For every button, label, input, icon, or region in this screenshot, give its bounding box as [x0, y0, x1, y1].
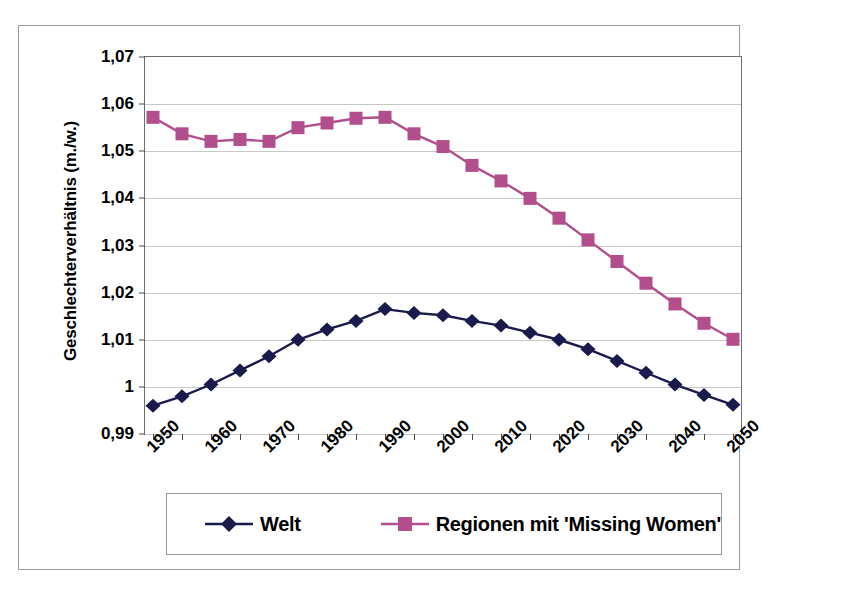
data-point-marker	[552, 333, 567, 347]
data-point-marker	[437, 140, 450, 153]
plot-area: 1,071,061,051,041,031,021,0110,99 195019…	[144, 56, 742, 435]
y-axis-tick-label: 1,01	[101, 330, 134, 350]
data-point-marker	[495, 174, 508, 187]
data-point-marker	[668, 378, 683, 392]
data-point-marker	[146, 399, 161, 413]
y-axis-tick-label: 1,06	[101, 94, 134, 114]
data-point-marker	[378, 302, 393, 316]
y-axis-tick-label: 1,04	[101, 188, 134, 208]
legend-label: Welt	[260, 513, 301, 536]
data-point-marker	[233, 363, 248, 377]
data-point-marker	[407, 306, 422, 320]
data-point-marker	[292, 121, 305, 134]
data-point-marker	[234, 133, 247, 146]
y-axis-tick-label: 1,07	[101, 47, 134, 67]
data-point-marker	[726, 398, 741, 412]
data-point-marker	[553, 212, 566, 225]
x-axis-tick-mark	[704, 434, 705, 440]
data-point-marker	[494, 319, 509, 333]
x-axis-tick-mark	[588, 434, 589, 440]
chart-legend: WeltRegionen mit 'Missing Women'	[166, 493, 722, 555]
data-point-marker	[436, 308, 451, 322]
x-axis-tick-mark	[356, 434, 357, 440]
y-axis-tick-label: 1	[125, 377, 134, 397]
data-point-marker	[466, 159, 479, 172]
y-axis-tick-label: 1,05	[101, 141, 134, 161]
data-point-marker	[291, 333, 306, 347]
legend-entry[interactable]: Welt	[203, 513, 301, 536]
data-point-marker	[639, 366, 654, 380]
data-point-marker	[465, 314, 480, 328]
x-axis-tick-mark	[414, 434, 415, 440]
data-point-marker	[263, 135, 276, 148]
data-point-marker	[262, 349, 277, 363]
data-point-marker	[320, 322, 335, 336]
y-axis-tick-label: 0,99	[101, 424, 134, 444]
x-axis-tick-mark	[646, 434, 647, 440]
data-point-marker	[669, 297, 682, 310]
data-point-marker	[524, 192, 537, 205]
x-axis-tick-mark	[530, 434, 531, 440]
data-point-marker	[610, 354, 625, 368]
data-point-marker	[205, 135, 218, 148]
chart-root: Geschlechterverhältnis (m./w.) 1,071,061…	[0, 0, 852, 592]
data-point-marker	[175, 389, 190, 403]
data-point-marker	[611, 255, 624, 268]
data-point-marker	[147, 111, 160, 124]
data-point-marker	[698, 317, 711, 330]
diamond-marker	[203, 514, 255, 534]
series-line	[153, 309, 733, 406]
x-axis-tick-mark	[472, 434, 473, 440]
data-point-marker	[176, 127, 189, 140]
y-axis-tick-label: 1,03	[101, 236, 134, 256]
data-point-marker	[350, 112, 363, 125]
x-axis-tick-mark	[182, 434, 183, 440]
y-axis-tick-label: 1,02	[101, 283, 134, 303]
x-axis-tick-mark	[298, 434, 299, 440]
legend-label: Regionen mit 'Missing Women'	[436, 513, 721, 536]
data-point-marker	[640, 277, 653, 290]
data-point-marker	[581, 342, 596, 356]
square-marker	[379, 514, 431, 534]
data-point-marker	[582, 233, 595, 246]
data-point-marker	[204, 378, 219, 392]
data-point-marker	[727, 333, 740, 346]
data-point-marker	[349, 314, 364, 328]
data-point-marker	[697, 388, 712, 402]
y-axis-title: Geschlechterverhältnis (m./w.)	[61, 71, 81, 411]
data-point-marker	[379, 111, 392, 124]
chart-outer-frame: Geschlechterverhältnis (m./w.) 1,071,061…	[18, 25, 740, 570]
data-point-marker	[408, 127, 421, 140]
legend-entry[interactable]: Regionen mit 'Missing Women'	[379, 513, 721, 536]
data-point-marker	[523, 326, 538, 340]
data-point-marker	[321, 116, 334, 129]
x-axis-tick-mark	[240, 434, 241, 440]
series-plot	[145, 57, 741, 434]
